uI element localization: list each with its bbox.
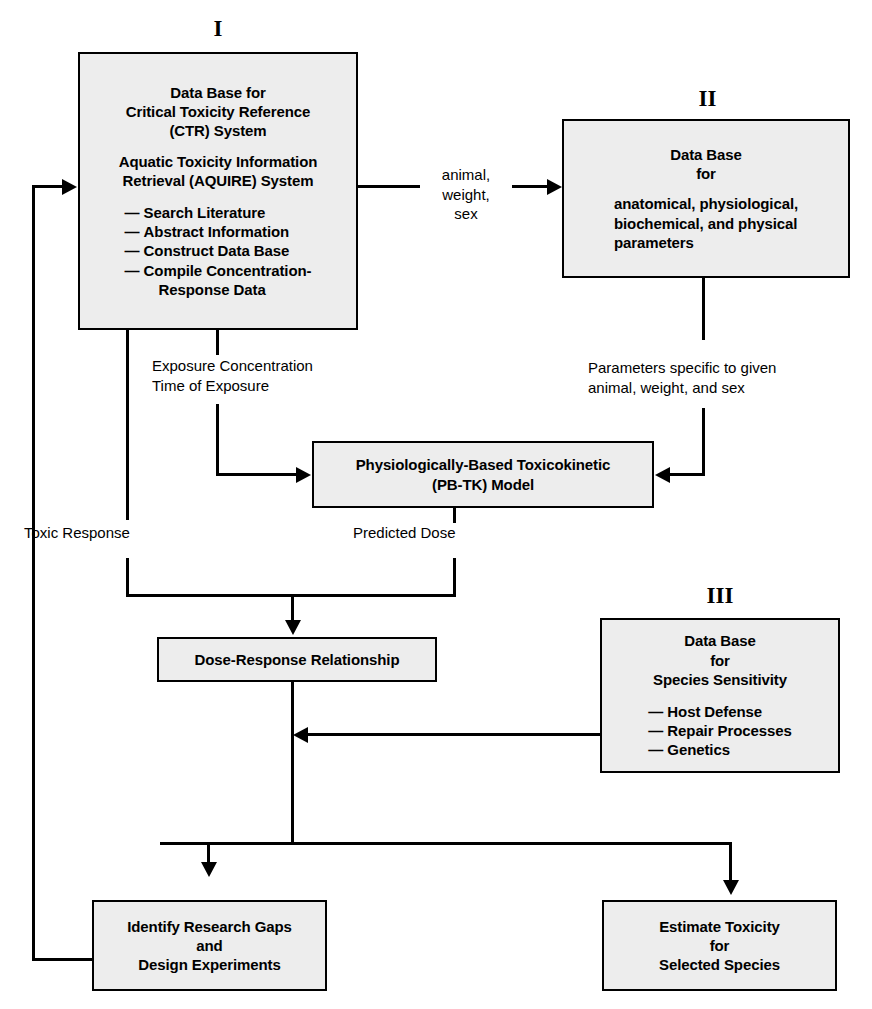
ctr-bullet-1: —Search Literature [125, 203, 312, 222]
ctr-line-4: Aquatic Toxicity Information [119, 152, 318, 171]
ctr-bullet-2: —Abstract Information [125, 222, 312, 241]
animal-label-line-3: sex [454, 205, 477, 222]
parameters-label-line-1: Parameters specific to given [588, 359, 776, 376]
flowchart-canvas: I II III Data Base for Critical Toxicity… [0, 0, 872, 1009]
params-line-1: Data Base [670, 145, 742, 164]
species-bullet-1: —Host Defense [648, 702, 791, 721]
connector-exposure-segment-down [216, 404, 219, 474]
connector-exposure-segment-top [216, 330, 219, 355]
box-database-species[interactable]: Data Base for Species Sensitivity —Host … [600, 618, 840, 773]
numeral-three-label: III [600, 583, 840, 609]
params-line-3: anatomical, physiological, [614, 194, 798, 213]
ctr-line-3: (CTR) System [169, 121, 266, 140]
connector-ctr-to-params-segment-a [358, 185, 420, 188]
edge-label-predicted-dose: Predicted Dose [353, 523, 456, 543]
dash-marker-icon: — [648, 702, 663, 721]
animal-label-line-2: weight, [442, 186, 490, 203]
gaps-line-1: Identify Research Gaps [127, 917, 292, 936]
gaps-line-2: and [196, 936, 222, 955]
ctr-bullet-list: —Search Literature —Abstract Information… [125, 203, 312, 299]
connector-params-segment-top [702, 278, 705, 340]
estimate-line-3: Selected Species [659, 955, 780, 974]
arrowhead-into-dose-response-box [285, 620, 301, 635]
arrowhead-into-pbtk-left [296, 467, 311, 483]
params-line-5: parameters [614, 233, 798, 252]
numeral-one-label: I [78, 16, 358, 42]
connector-exposure-segment-right [216, 473, 298, 476]
connector-params-segment-left [670, 473, 705, 476]
exposure-label-line-2: Time of Exposure [152, 377, 269, 394]
estimate-line-2: for [710, 936, 730, 955]
dash-marker-icon: — [648, 740, 663, 759]
numeral-two-label: II [565, 86, 850, 112]
box-pbtk-model[interactable]: Physiologically-Based Toxicokinetic (PB-… [312, 441, 654, 508]
ctr-line-1: Data Base for [170, 83, 265, 102]
parameters-label-line-2: animal, weight, and sex [588, 379, 745, 396]
params-line-2: for [696, 164, 716, 183]
species-bullet-3-text: Genetics [667, 741, 730, 758]
ctr-bullet-2-text: Abstract Information [144, 223, 290, 240]
species-bullet-2-text: Repair Processes [667, 722, 791, 739]
dash-marker-icon: — [648, 721, 663, 740]
species-bullet-2: —Repair Processes [648, 721, 791, 740]
connector-feedback-bottom [32, 958, 94, 961]
species-line-3: Species Sensitivity [653, 670, 787, 689]
dash-marker-icon: — [125, 222, 140, 241]
box-dose-response[interactable]: Dose-Response Relationship [157, 637, 437, 682]
arrowhead-into-estimate-toxicity-box [723, 880, 739, 895]
dose-response-line-1: Dose-Response Relationship [195, 650, 400, 669]
connector-toxic-response-top [126, 330, 129, 520]
connector-predicted-dose-top [453, 508, 456, 523]
ctr-bullet-4: —Compile Concentration- [125, 261, 312, 280]
edge-label-parameters-specific: Parameters specific to given animal, wei… [588, 358, 776, 397]
ctr-bullet-1-text: Search Literature [144, 204, 266, 221]
gaps-line-3: Design Experiments [138, 955, 280, 974]
params-line-4: biochemical, and physical [614, 214, 798, 233]
pbtk-line-1: Physiologically-Based Toxicokinetic [356, 455, 611, 474]
ctr-bullet-4-continuation: Response Data [125, 280, 312, 299]
ctr-bullet-4-text: Compile Concentration- [144, 262, 312, 279]
species-bullet-1-text: Host Defense [667, 703, 762, 720]
connector-params-segment-down [702, 408, 705, 474]
species-bullet-list: —Host Defense —Repair Processes —Genetic… [648, 702, 791, 760]
dash-marker-icon: — [125, 241, 140, 260]
connector-species-to-spine [308, 733, 600, 736]
edge-label-toxic-response: Toxic Response [24, 523, 130, 543]
connector-ctr-to-params-segment-b [512, 185, 549, 188]
species-line-2: for [710, 651, 730, 670]
ctr-line-2: Critical Toxicity Reference [126, 102, 311, 121]
connector-feedback-vertical [32, 185, 35, 961]
dash-marker-icon: — [125, 203, 140, 222]
params-text-block: anatomical, physiological, biochemical, … [614, 194, 798, 252]
estimate-line-1: Estimate Toxicity [659, 917, 780, 936]
ctr-line-5: Retrieval (AQUIRE) System [123, 171, 314, 190]
dash-marker-icon: — [125, 261, 140, 280]
pbtk-line-2: (PB-TK) Model [432, 475, 534, 494]
edge-label-animal-weight-sex: animal, weight, sex [420, 165, 512, 224]
species-line-1: Data Base [684, 631, 756, 650]
connector-split-to-gaps [207, 842, 210, 864]
arrowhead-into-identify-gaps-box [201, 862, 217, 877]
arrowhead-into-pbtk-right [655, 467, 670, 483]
box-identify-research-gaps[interactable]: Identify Research Gaps and Design Experi… [92, 900, 327, 991]
box-database-ctr[interactable]: Data Base for Critical Toxicity Referenc… [78, 52, 358, 330]
exposure-label-line-1: Exposure Concentration [152, 357, 313, 374]
connector-predicted-dose-bottom [453, 558, 456, 596]
arrowhead-into-params-box [547, 179, 562, 195]
connector-toxic-response-bottom [126, 558, 129, 596]
arrowhead-species-into-spine [293, 727, 308, 743]
connector-feedback-top [32, 185, 64, 188]
arrowhead-feedback-into-ctr-box [62, 179, 77, 195]
connector-dose-response-spine [291, 682, 294, 844]
species-bullet-3: —Genetics [648, 740, 791, 759]
connector-split-to-estimate [729, 842, 732, 884]
box-estimate-toxicity[interactable]: Estimate Toxicity for Selected Species [602, 900, 837, 991]
connector-bottom-split-bar [160, 842, 732, 845]
animal-label-line-1: animal, [442, 166, 490, 183]
connector-merge-to-dose-response [291, 594, 294, 621]
edge-label-exposure: Exposure Concentration Time of Exposure [152, 356, 313, 395]
ctr-bullet-3-text: Construct Data Base [144, 242, 290, 259]
ctr-bullet-3: —Construct Data Base [125, 241, 312, 260]
box-database-parameters[interactable]: Data Base for anatomical, physiological,… [562, 119, 850, 278]
